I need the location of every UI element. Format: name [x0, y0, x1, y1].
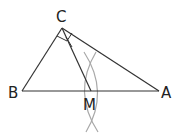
triangle-diagram: C B A M — [0, 0, 186, 135]
label-b: B — [8, 84, 18, 102]
label-m: M — [83, 96, 96, 114]
side-cb — [22, 28, 62, 91]
label-a: A — [161, 84, 172, 102]
label-c: C — [56, 8, 66, 26]
